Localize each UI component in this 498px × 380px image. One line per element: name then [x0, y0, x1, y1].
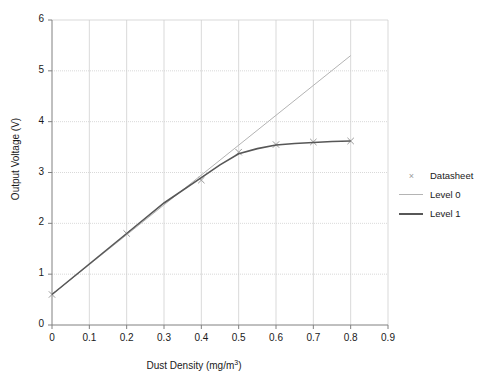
y-tick-label: 1 [18, 267, 44, 278]
x-tick-label: 0.9 [368, 332, 408, 343]
x-tick-label: 0.7 [293, 332, 333, 343]
chart-figure: 00.10.20.30.40.50.60.70.80.9 0123456 Dus… [0, 0, 498, 380]
line-swatch [399, 213, 423, 215]
legend-item-datasheet[interactable]: ×Datasheet [398, 166, 498, 185]
y-tick-label: 0 [18, 318, 44, 329]
x-marker-glyph: × [407, 172, 416, 181]
line-swatch-icon [398, 189, 424, 201]
x-tick-label: 0 [32, 332, 72, 343]
legend-item-level-1[interactable]: Level 1 [398, 204, 498, 223]
x-tick-label: 0.2 [107, 332, 147, 343]
x-axis-title: Dust Density (mg/m3) [0, 355, 388, 373]
x-axis-title-text: Dust Density (mg/m [146, 360, 234, 371]
x-tick-label: 0.5 [219, 332, 259, 343]
x-tick-label: 0.6 [256, 332, 296, 343]
chart-legend: ×DatasheetLevel 0Level 1 [398, 166, 498, 223]
line-swatch-icon [398, 208, 424, 220]
x-tick-label: 0.3 [144, 332, 184, 343]
x-tick-label: 0.4 [181, 332, 221, 343]
line-swatch [399, 194, 423, 195]
legend-label: Level 1 [430, 208, 461, 219]
y-tick-label: 6 [18, 13, 44, 24]
x-tick-label: 0.1 [69, 332, 109, 343]
legend-item-level-0[interactable]: Level 0 [398, 185, 498, 204]
x-axis-title-tail: ) [238, 360, 241, 371]
legend-label: Datasheet [430, 170, 473, 181]
legend-label: Level 0 [430, 189, 461, 200]
y-axis-title-text: Output Voltage (V) [10, 118, 21, 200]
y-axis-title: Output Voltage (V) [5, 59, 23, 259]
x-marker-icon: × [398, 170, 424, 182]
x-tick-label: 0.8 [331, 332, 371, 343]
